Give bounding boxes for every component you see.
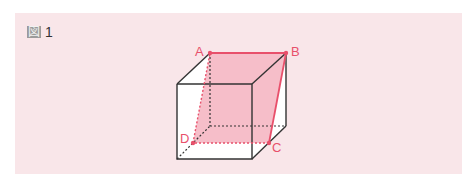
cube-diagram — [0, 0, 472, 187]
vertex-label-a: A — [195, 44, 204, 59]
vertex-c-dot — [267, 141, 271, 145]
vertex-b-dot — [284, 51, 288, 55]
vertex-a-dot — [208, 51, 212, 55]
vertex-label-d: D — [180, 131, 189, 146]
vertex-label-b: B — [291, 44, 300, 59]
vertex-label-c: C — [272, 140, 281, 155]
vertex-d-dot — [191, 141, 195, 145]
